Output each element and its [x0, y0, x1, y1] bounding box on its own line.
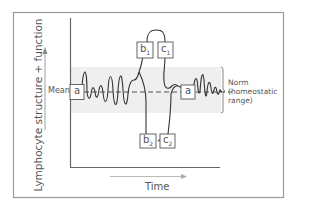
norm-label-line3: range) [228, 96, 277, 105]
c2-subscript: 2 [169, 140, 173, 147]
y-axis-label-text: Lymphocyte structure + function [32, 19, 44, 192]
box-c1-label: c1 [161, 43, 170, 56]
b2-subscript: 2 [149, 140, 153, 147]
norm-label: Norm (homeostatic range) [228, 78, 277, 105]
box-a-left-label: a [74, 85, 80, 96]
norm-label-line2: (homeostatic [228, 87, 277, 96]
box-c2-label: c2 [163, 134, 172, 147]
mean-label: Mean [48, 86, 70, 95]
y-axis-label: Lymphocyte structure + function [32, 19, 44, 192]
norm-label-line1: Norm [228, 78, 277, 87]
x-axis-label: Time [145, 181, 169, 192]
box-a-right-label: a [185, 85, 191, 96]
b1-subscript: 1 [146, 49, 150, 56]
c1-subscript: 1 [167, 49, 171, 56]
box-b2-label: b2 [143, 134, 153, 147]
box-b1-label: b1 [140, 43, 150, 56]
